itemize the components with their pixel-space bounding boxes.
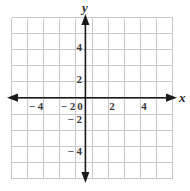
y-axis-arrow-down xyxy=(81,172,89,183)
y-tick-label-2: 2 xyxy=(77,74,83,85)
x-axis-arrow-right xyxy=(166,94,177,102)
origin-label: 0 xyxy=(77,101,83,112)
coordinate-plane-graphics xyxy=(0,0,190,191)
x-axis-arrow-left xyxy=(7,94,18,102)
x-axis-label: x xyxy=(179,91,186,104)
x-tick-label-4: 4 xyxy=(141,101,147,112)
y-axis-arrow-up xyxy=(81,14,89,25)
x-tick-label-neg2: − 2 xyxy=(61,101,76,112)
coordinate-plane: − 4 − 2 0 2 4 4 2 − 2 − 4 y x xyxy=(0,0,190,191)
y-tick-label-neg2: − 2 xyxy=(67,114,82,125)
y-tick-label-neg4: − 4 xyxy=(67,146,82,157)
y-tick-label-4: 4 xyxy=(77,42,83,53)
x-tick-label-2: 2 xyxy=(109,101,115,112)
y-axis-label: y xyxy=(82,1,88,14)
x-tick-label-neg4: − 4 xyxy=(29,101,44,112)
